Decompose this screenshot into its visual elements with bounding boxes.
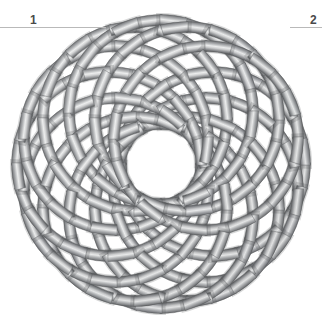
figure-root: 1 2 bbox=[0, 0, 322, 315]
annotation-rule-2 bbox=[290, 27, 322, 28]
rosette-knot-graphic bbox=[0, 0, 322, 315]
annotation-label-1: 1 bbox=[30, 14, 37, 26]
annotation-rule-1 bbox=[0, 27, 106, 28]
annotation-label-2: 2 bbox=[310, 14, 317, 26]
